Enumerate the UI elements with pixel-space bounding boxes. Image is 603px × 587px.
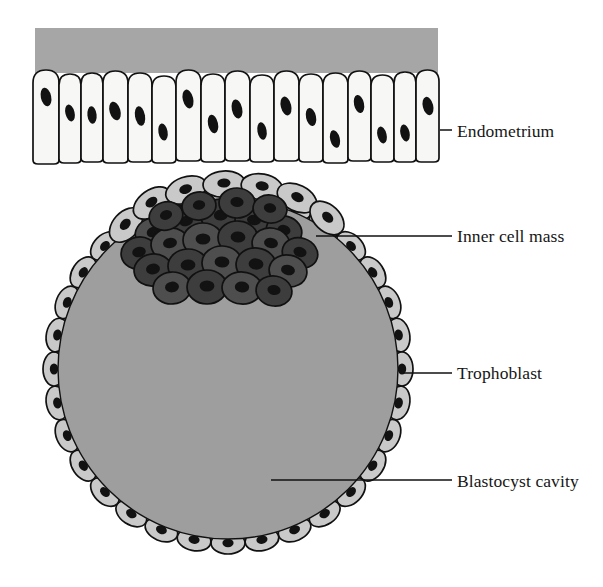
endometrium-group [33,28,439,164]
diagram-canvas: EndometriumInner cell massTrophoblastBla… [0,0,603,587]
endometrium-cell [103,71,128,163]
endometrium-cell [176,70,201,161]
label-inner-cell-mass: Inner cell mass [457,226,565,246]
endometrium-stroma-band [35,28,438,73]
endometrium-cell [274,71,299,161]
endometrium-cell [81,73,103,162]
endometrium-cell-body [394,72,416,162]
endometrium-cell [416,70,439,162]
endometrium-cell [323,73,348,163]
endometrium-cell-body [416,70,439,162]
label-endometrium: Endometrium [457,121,555,141]
endometrium-cell-body [176,70,201,161]
endometrium-cell [128,73,152,162]
trophoblast-cell-nucleus [222,539,233,547]
endometrium-cell [299,74,323,162]
endometrium-cell [59,74,81,163]
endometrium-cell [201,74,225,162]
endometrium-cell [250,75,274,162]
endometrium-cell [348,71,371,161]
endometrium-cell-body [274,71,299,161]
inner-cell-mass-cell [218,187,255,218]
endometrium-cell-body [250,75,274,162]
endometrium-cell-body [323,73,348,163]
endometrium-cell-body [371,75,394,162]
endometrium-cell [371,75,394,162]
endometrium-epithelial-cells [33,70,439,164]
endometrium-cell [152,76,176,163]
endometrium-cell-body [348,71,371,161]
label-trophoblast: Trophoblast [457,363,542,383]
label-blastocyst-cavity: Blastocyst cavity [457,471,579,491]
endometrium-cell [225,71,250,161]
trophoblast-cell-nucleus [50,363,58,374]
blastocyst-group [43,170,413,554]
blastocyst-implantation-diagram: EndometriumInner cell massTrophoblastBla… [0,0,603,587]
endometrium-cell-body [152,76,176,163]
inner-cell-mass-cell-nucleus [200,280,215,291]
endometrium-cell-body [33,70,59,164]
endometrium-cell [394,72,416,162]
inner-cell-mass-cell [187,270,227,304]
inner-cell-mass-cell-nucleus [196,233,211,244]
endometrium-cell [33,70,59,164]
